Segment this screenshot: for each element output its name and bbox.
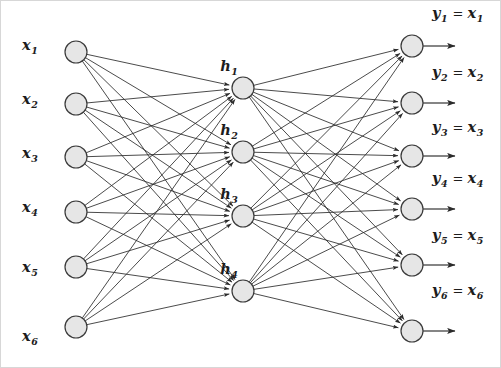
edge-h3-y2 xyxy=(252,111,400,210)
input-label-x4: x4 xyxy=(21,198,38,218)
node-y4[interactable] xyxy=(401,198,423,220)
input-label-x1: x1 xyxy=(21,36,38,56)
node-h1[interactable] xyxy=(232,77,254,99)
output-label-y1: y1=x1 xyxy=(431,4,483,24)
edge-h4-y5 xyxy=(254,267,398,289)
output-label-y5: y5=x5 xyxy=(431,226,484,246)
input-label-x2: x2 xyxy=(21,90,38,110)
edge-h2-y3 xyxy=(254,152,398,155)
hidden-label-h2: h2 xyxy=(220,121,238,141)
edge-x3-h2 xyxy=(87,152,229,156)
edge-x1-h1 xyxy=(87,54,230,85)
edge-x6-h2 xyxy=(84,162,234,319)
node-h3[interactable] xyxy=(232,205,254,227)
edge-x6-h3 xyxy=(85,224,231,321)
hidden-label-h1: h1 xyxy=(220,57,238,77)
node-y6[interactable] xyxy=(401,320,423,342)
edge-x3-h3 xyxy=(86,161,229,212)
node-y5[interactable] xyxy=(401,254,423,276)
edge-h4-y1 xyxy=(249,58,404,282)
edges-input-to-hidden xyxy=(82,54,235,324)
output-label-y4: y4=x4 xyxy=(431,169,483,189)
hidden-label-h4: h4 xyxy=(220,260,238,280)
edge-x2-h2 xyxy=(87,107,230,148)
node-x2[interactable] xyxy=(65,93,87,115)
input-labels-group: x1x2x3x4x5x6 xyxy=(21,36,38,347)
edge-x6-h1 xyxy=(82,99,235,318)
edge-h1-y5 xyxy=(251,96,403,255)
edge-x2-h3 xyxy=(85,110,231,208)
output-label-y6: y6=x6 xyxy=(431,281,484,301)
input-label-x6: x6 xyxy=(21,327,38,347)
node-x1[interactable] xyxy=(65,41,87,63)
edge-h2-y5 xyxy=(252,158,400,257)
node-y2[interactable] xyxy=(401,92,423,114)
edge-h1-y1 xyxy=(254,49,399,85)
edge-x3-h1 xyxy=(86,93,230,152)
node-y3[interactable] xyxy=(401,145,423,167)
edge-x4-h4 xyxy=(86,217,230,285)
edge-h4-y3 xyxy=(252,165,401,284)
node-x5[interactable] xyxy=(65,256,87,278)
output-label-y2: y2=x2 xyxy=(431,63,484,83)
input-label-x5: x5 xyxy=(21,258,38,278)
edge-x4-h3 xyxy=(87,212,229,215)
edge-h3-y4 xyxy=(254,210,398,216)
edge-h3-y6 xyxy=(252,222,400,323)
edge-x5-h2 xyxy=(85,160,231,261)
network-canvas: x1x2x3x4x5x6 h1h2h3h4 y1=x1y2=x2y3=x3y4=… xyxy=(0,0,501,368)
edge-x2-h4 xyxy=(83,112,233,280)
edge-x3-h4 xyxy=(85,164,233,282)
node-y1[interactable] xyxy=(401,35,423,57)
edge-x6-h4 xyxy=(87,294,230,325)
input-nodes-group xyxy=(65,41,87,338)
node-x6[interactable] xyxy=(65,316,87,338)
output-nodes-group xyxy=(401,35,423,342)
input-label-x3: x3 xyxy=(21,144,38,164)
edge-x5-h3 xyxy=(87,220,230,264)
edge-x5-h1 xyxy=(84,98,234,259)
edges-hidden-to-output xyxy=(249,49,404,327)
hidden-label-h3: h3 xyxy=(220,185,238,205)
edge-h4-y6 xyxy=(254,294,399,328)
node-h4[interactable] xyxy=(232,280,254,302)
node-x3[interactable] xyxy=(65,146,87,168)
node-x4[interactable] xyxy=(65,201,87,223)
node-h2[interactable] xyxy=(232,141,254,163)
edge-h2-y4 xyxy=(253,156,398,205)
output-label-y3: y3=x3 xyxy=(431,118,484,138)
neural-network-diagram: x1x2x3x4x5x6 h1h2h3h4 y1=x1y2=x2y3=x3y4=… xyxy=(0,0,501,368)
edge-x5-h4 xyxy=(87,269,229,289)
output-labels-group: y1=x1y2=x2y3=x3y4=x4y5=x5y6=x6 xyxy=(431,4,484,301)
edge-h4-y4 xyxy=(253,215,400,286)
